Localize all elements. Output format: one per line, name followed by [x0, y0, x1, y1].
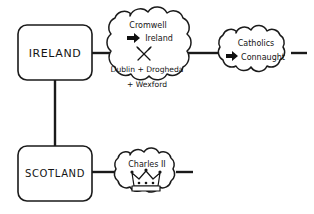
cloud-cromwell-line-4: + Wexford	[127, 80, 167, 89]
cloud-catholics-line-1: Catholics	[238, 39, 275, 48]
node-ireland[interactable]: IRELAND	[18, 25, 92, 80]
node-scotland-label: SCOTLAND	[25, 168, 85, 179]
cloud-cromwell-line-3: Dublin + Drogheda	[111, 65, 184, 74]
node-scotland[interactable]: SCOTLAND	[18, 146, 92, 201]
diagram-canvas: IRELAND SCOTLAND Cromwell Ireland Dubl	[0, 0, 314, 214]
cloud-cromwell-line-1: Cromwell	[129, 21, 166, 30]
cloud-charles-line-1: Charles II	[128, 160, 165, 169]
cloud-cromwell-ireland[interactable]: Cromwell Ireland Dublin + Drogheda + Wex…	[107, 7, 191, 89]
cloud-charles-ii[interactable]: Charles II	[114, 148, 174, 192]
node-ireland-label: IRELAND	[29, 47, 82, 60]
cloud-cromwell-line-2: Ireland	[145, 34, 173, 43]
cloud-catholics-line-2: Connaught	[241, 53, 285, 62]
cloud-catholics-connaught[interactable]: Catholics Connaught	[218, 26, 285, 72]
